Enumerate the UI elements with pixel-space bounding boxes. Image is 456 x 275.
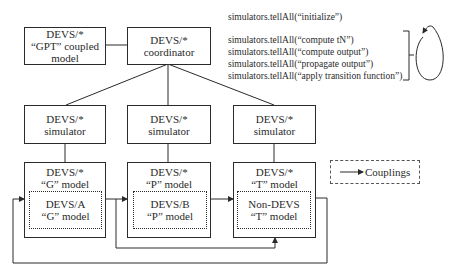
simulator-line2: simulator	[44, 125, 86, 137]
simulator-line2: simulator	[148, 125, 190, 137]
inner-line1: Non-DEVS	[248, 198, 299, 210]
gpt-line3: model	[51, 52, 79, 64]
coordinator-line2: coordinator	[144, 46, 195, 58]
inner-model-g: DEVS/A “G” model	[29, 191, 102, 229]
inner-line1: DEVS/A	[46, 198, 86, 210]
model-line1: DEVS/*	[150, 166, 187, 178]
simulator-line1: DEVS/*	[256, 113, 293, 125]
simulator-box-3: DEVS/* simulator	[233, 105, 316, 144]
model-line2: “T” model	[251, 178, 298, 190]
simulator-line1: DEVS/*	[46, 113, 83, 125]
loop-arrow	[416, 26, 443, 80]
simulator-line2: simulator	[254, 125, 296, 137]
loop-command-2: simulators.tellAll(“compute output”)	[228, 46, 368, 58]
loop-bracket	[403, 31, 409, 80]
inner-model-p: DEVS/B “P” model	[133, 191, 207, 229]
inner-line2: “T” model	[251, 210, 298, 222]
simulator-box-1: DEVS/* simulator	[24, 105, 106, 144]
inner-line1: DEVS/B	[150, 198, 189, 210]
coord-sim1-link	[66, 64, 168, 105]
loop-command-1: simulators.tellAll(“compute tN”)	[228, 34, 354, 46]
loop-command-3: simulators.tellAll(“propagate output”)	[228, 58, 373, 70]
inner-line2: “P” model	[147, 210, 193, 222]
legend-box: Couplings	[330, 160, 420, 184]
legend-label: Couplings	[365, 166, 410, 178]
coordinator-box: DEVS/* coordinator	[127, 27, 211, 65]
gpt-coupled-model-box: DEVS/* “GPT” coupled model	[24, 27, 106, 65]
loop-command-4: simulators.tellAll(“apply transition fun…	[228, 70, 402, 82]
coordinator-line1: DEVS/*	[150, 34, 187, 46]
simulator-line1: DEVS/*	[150, 113, 187, 125]
model-line1: DEVS/*	[256, 166, 293, 178]
model-line1: DEVS/*	[46, 166, 83, 178]
gpt-line1: DEVS/*	[46, 28, 83, 40]
gpt-line2: “GPT” coupled	[31, 40, 99, 52]
model-line2: “P” model	[146, 178, 192, 190]
model-line2: “G” model	[41, 178, 89, 190]
inner-model-t: Non-DEVS “T” model	[237, 191, 311, 229]
simulator-box-2: DEVS/* simulator	[127, 105, 211, 144]
init-command: simulators.tellAll(“initialize”)	[228, 11, 342, 23]
inner-line2: “G” model	[42, 210, 90, 222]
